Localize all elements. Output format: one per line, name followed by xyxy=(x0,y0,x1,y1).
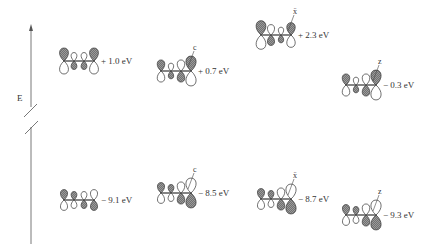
shaded-p-lobe-icon xyxy=(342,205,349,215)
energy-label: + 0.7 eV xyxy=(198,66,230,76)
open-p-lobe-icon xyxy=(177,60,185,71)
energy-label: − 0.3 eV xyxy=(383,80,415,90)
shaded-p-lobe-icon xyxy=(267,35,274,45)
substituent-label: c xyxy=(193,43,197,52)
shaded-p-lobe-icon xyxy=(371,215,381,230)
shaded-p-lobe-icon xyxy=(168,185,174,193)
open-p-lobe-icon xyxy=(81,53,87,61)
orbital-diagram-x-substituted-homo: ẍ− 8.7 eV xyxy=(257,171,329,214)
orbital-diagram-c-substituted-homo: c− 8.5 eV xyxy=(157,165,229,208)
open-p-lobe-icon xyxy=(60,200,67,210)
shaded-p-lobe-icon xyxy=(157,60,165,71)
open-p-lobe-icon xyxy=(168,193,174,201)
shaded-p-lobe-icon xyxy=(278,35,283,43)
orbitals-layer: + 1.0 eVc+ 0.7 eVẍ+ 2.3 eVz− 0.3 eV− 9.1… xyxy=(60,7,415,230)
open-p-lobe-icon xyxy=(362,204,370,215)
open-p-lobe-icon xyxy=(268,199,274,207)
open-p-lobe-icon xyxy=(342,215,349,225)
open-p-lobe-icon xyxy=(371,85,381,100)
orbital-energy-diagram: E + 1.0 eVc+ 0.7 eVẍ+ 2.3 eVz− 0.3 eV− 9… xyxy=(0,0,431,252)
energy-axis: E xyxy=(17,24,38,244)
open-p-lobe-icon xyxy=(353,215,359,223)
orbital-diagram-z-substituted-lumo: z− 0.3 eV xyxy=(342,57,415,100)
orbital-diagram-z-substituted-homo: z− 9.3 eV xyxy=(342,187,414,230)
shaded-p-lobe-icon xyxy=(81,200,87,208)
substituent-label: z xyxy=(378,57,382,66)
open-p-lobe-icon xyxy=(362,74,370,85)
energy-label: + 1.0 eV xyxy=(101,56,133,66)
energy-label: − 8.7 eV xyxy=(298,194,330,204)
open-p-lobe-icon xyxy=(287,35,295,47)
shaded-p-lobe-icon xyxy=(177,193,185,204)
shaded-p-lobe-icon xyxy=(362,215,370,226)
open-p-lobe-icon xyxy=(168,63,173,71)
open-p-lobe-icon xyxy=(90,61,99,74)
orbital-diagram-butadiene-homo: − 9.1 eV xyxy=(60,190,132,211)
substituent-label: c xyxy=(193,165,197,174)
orbital-diagram-butadiene-lumo: + 1.0 eV xyxy=(60,48,133,74)
shaded-p-lobe-icon xyxy=(287,23,295,35)
open-p-lobe-icon xyxy=(277,188,285,199)
shaded-p-lobe-icon xyxy=(342,74,350,85)
axis-break-mark-lower xyxy=(25,121,38,134)
shaded-p-lobe-icon xyxy=(60,48,69,61)
open-p-lobe-icon xyxy=(90,190,97,200)
open-p-lobe-icon xyxy=(267,25,274,35)
shaded-p-lobe-icon xyxy=(186,193,196,208)
open-p-lobe-icon xyxy=(342,85,350,96)
axis-label: E xyxy=(17,93,23,103)
open-p-lobe-icon xyxy=(71,53,77,61)
shaded-p-lobe-icon xyxy=(286,199,296,214)
open-p-lobe-icon xyxy=(71,200,77,208)
shaded-p-lobe-icon xyxy=(90,200,97,210)
shaded-p-lobe-icon xyxy=(353,85,358,93)
shaded-p-lobe-icon xyxy=(256,21,266,35)
energy-label: + 2.3 eV xyxy=(298,30,330,40)
substituent-label: z xyxy=(378,187,382,196)
open-p-lobe-icon xyxy=(157,71,165,82)
energy-label: − 9.3 eV xyxy=(383,210,415,220)
shaded-p-lobe-icon xyxy=(177,71,185,82)
shaded-p-lobe-icon xyxy=(81,61,87,69)
shaded-p-lobe-icon xyxy=(71,192,77,200)
shaded-p-lobe-icon xyxy=(60,190,67,200)
open-p-lobe-icon xyxy=(186,71,196,86)
orbital-diagram-c-substituted-lumo: c+ 0.7 eV xyxy=(157,43,230,86)
shaded-p-lobe-icon xyxy=(353,207,359,215)
shaded-p-lobe-icon xyxy=(268,191,274,199)
shaded-p-lobe-icon xyxy=(257,189,264,199)
open-p-lobe-icon xyxy=(60,61,69,74)
orbital-diagram-x-substituted-lumo: ẍ+ 2.3 eV xyxy=(256,7,330,49)
open-p-lobe-icon xyxy=(81,192,87,200)
open-p-lobe-icon xyxy=(177,182,185,193)
shaded-p-lobe-icon xyxy=(90,48,99,61)
shaded-p-lobe-icon xyxy=(71,61,77,69)
axis-arrow-icon xyxy=(29,24,33,31)
open-p-lobe-icon xyxy=(157,193,164,203)
open-p-lobe-icon xyxy=(257,199,264,209)
substituent-label: ẍ xyxy=(293,7,297,16)
open-p-lobe-icon xyxy=(256,35,266,49)
axis-break-mark-upper xyxy=(24,104,37,117)
substituent-label: ẍ xyxy=(293,171,297,180)
shaded-p-lobe-icon xyxy=(168,71,173,79)
energy-label: − 8.5 eV xyxy=(198,188,230,198)
open-p-lobe-icon xyxy=(353,77,358,85)
shaded-p-lobe-icon xyxy=(157,183,164,193)
shaded-p-lobe-icon xyxy=(362,85,370,96)
shaded-p-lobe-icon xyxy=(277,199,285,210)
energy-label: − 9.1 eV xyxy=(101,195,133,205)
open-p-lobe-icon xyxy=(278,27,283,35)
